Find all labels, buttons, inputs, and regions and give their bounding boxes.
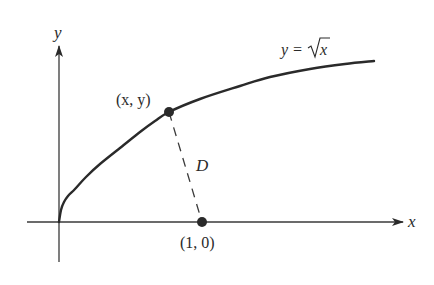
x-axis-label: x <box>407 212 416 231</box>
equation-radicand: x <box>319 41 327 58</box>
fixed-point-marker <box>197 217 207 227</box>
equation-label: y = x <box>279 38 330 59</box>
sqrt-distance-diagram: y x (x, y) (1, 0) D y = x <box>0 0 434 285</box>
curve-point-label: (x, y) <box>116 91 151 109</box>
y-axis-label: y <box>52 23 62 42</box>
curve-point-marker <box>164 107 174 117</box>
equation-lhs: y = <box>279 41 303 59</box>
sqrt-curve <box>59 61 374 222</box>
distance-label: D <box>195 156 209 175</box>
fixed-point-label: (1, 0) <box>180 234 215 252</box>
